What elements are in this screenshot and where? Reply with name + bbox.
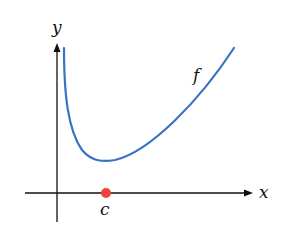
function-curve-f [64, 48, 234, 161]
x-axis-arrow-icon [244, 190, 253, 197]
point-c-marker [101, 188, 111, 198]
function-label-f: f [191, 65, 202, 85]
y-axis [54, 43, 61, 222]
x-axis [25, 190, 253, 197]
x-axis-label: x [259, 182, 269, 202]
point-label-c: c [100, 199, 110, 219]
y-axis-arrow-icon [54, 43, 61, 52]
y-axis-label: y [51, 17, 62, 37]
function-graph: y x f c [0, 0, 282, 240]
